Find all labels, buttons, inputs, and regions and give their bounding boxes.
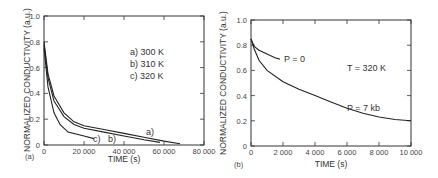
panel-a: 020 00040 00060 00080 00000.20.40.60.81.… bbox=[22, 8, 215, 164]
y-tick-label: 0.8 bbox=[237, 41, 247, 50]
annotation-p7kb: P = 7 kb bbox=[347, 103, 380, 113]
x-tick-label: 8 000 bbox=[370, 148, 389, 157]
y-tick-label: 0.4 bbox=[237, 92, 247, 101]
x-axis-label-b: TIME (s) bbox=[315, 159, 348, 169]
x-tick-label: 4 000 bbox=[306, 148, 325, 157]
y-tick-label: 0.6 bbox=[237, 66, 247, 75]
panel-tag-b: (b) bbox=[234, 160, 244, 169]
curve-label-c: c) bbox=[93, 134, 101, 144]
x-tick-label: 0 bbox=[249, 148, 253, 157]
x-tick-label: 80 000 bbox=[193, 147, 216, 156]
curves-b bbox=[251, 39, 411, 121]
x-tick-label: 6 000 bbox=[338, 148, 357, 157]
x-axis-label-a: TIME (s) bbox=[108, 154, 141, 164]
y-tick-label: 0 bbox=[36, 141, 40, 150]
plot-frame-a bbox=[44, 16, 204, 145]
panel-b: 02 0004 0006 0008 00010 00000.20.40.60.8… bbox=[218, 11, 422, 169]
plot-frame-b bbox=[251, 20, 411, 146]
legend-item-c: c) 320 K bbox=[130, 71, 164, 81]
y-tick-label: 1.0 bbox=[237, 16, 247, 25]
y-tick-label: 0 bbox=[243, 142, 247, 151]
ticks-b: 02 0004 0006 0008 00010 00000.20.40.60.8… bbox=[237, 16, 423, 157]
x-tick-label: 20 000 bbox=[73, 147, 96, 156]
legend-item-b: b) 310 K bbox=[130, 59, 164, 69]
data-curve bbox=[251, 39, 280, 59]
legend-item-a: a) 300 K bbox=[130, 47, 164, 57]
y-tick-label: 0.2 bbox=[237, 117, 247, 126]
x-tick-label: 10 000 bbox=[400, 148, 423, 157]
annotation-temperature: T = 320 K bbox=[347, 63, 386, 73]
panel-tag-a: (a) bbox=[25, 152, 35, 161]
annotation-p0: P = 0 bbox=[284, 54, 305, 64]
x-tick-label: 2 000 bbox=[274, 148, 293, 157]
ticks-a: 020 00040 00060 00080 00000.20.40.60.81.… bbox=[30, 12, 216, 156]
y-axis-label-a: NORMALIZED CONDUCTIVITY (a.u.) bbox=[22, 8, 32, 152]
curve-label-b: b) bbox=[108, 134, 116, 144]
y-axis-label-b: NORMALIZED CONDUCTIVITY (a.u.) bbox=[218, 11, 228, 155]
x-tick-label: 60 000 bbox=[153, 147, 176, 156]
curve-label-a: a) bbox=[146, 127, 154, 137]
figure: 020 00040 00060 00080 00000.20.40.60.81.… bbox=[0, 0, 438, 178]
data-curve bbox=[251, 39, 411, 121]
curves-a bbox=[44, 42, 180, 144]
x-tick-label: 0 bbox=[42, 147, 46, 156]
